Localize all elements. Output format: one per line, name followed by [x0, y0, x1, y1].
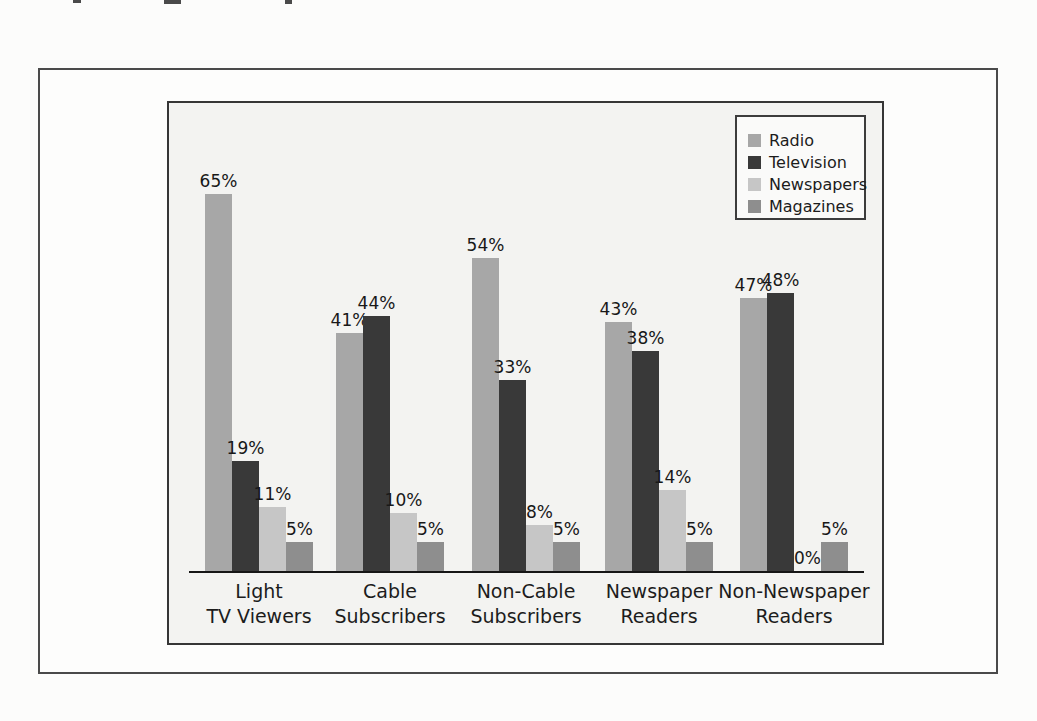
- legend-item-magazines: Magazines: [748, 195, 864, 217]
- bar-newspapers-2: [390, 513, 417, 571]
- chart-panel: 65%19%11%5%LightTV Viewers41%44%10%5%Cab…: [167, 101, 884, 645]
- x-axis-label-5: Non-NewspaperReaders: [718, 579, 869, 629]
- bar-television-5: [767, 293, 794, 571]
- bar-value-label-radio-1: 65%: [200, 171, 238, 191]
- bar-television-2: [363, 316, 390, 571]
- legend-label-newspapers: Newspapers: [769, 175, 867, 194]
- bar-value-label-television-4: 38%: [627, 328, 665, 348]
- bar-value-label-newspapers-1: 11%: [254, 484, 292, 504]
- bar-value-label-newspapers-3: 8%: [526, 502, 553, 522]
- legend-swatch-radio: [748, 134, 761, 147]
- bar-newspapers-4: [659, 490, 686, 571]
- legend-swatch-television: [748, 156, 761, 169]
- bar-magazines-1: [286, 542, 313, 571]
- bar-value-label-radio-3: 54%: [467, 235, 505, 255]
- bar-group-3: 54%33%8%5%: [472, 258, 580, 571]
- bar-value-label-television-1: 19%: [227, 438, 265, 458]
- bar-radio-5: [740, 298, 767, 571]
- figure-frame: 65%19%11%5%LightTV Viewers41%44%10%5%Cab…: [38, 68, 998, 674]
- legend-item-television: Television: [748, 151, 864, 173]
- bar-value-label-radio-4: 43%: [600, 299, 638, 319]
- bar-group-5: 47%48%0%5%: [740, 293, 848, 571]
- legend-label-magazines: Magazines: [769, 197, 854, 216]
- bar-value-label-magazines-1: 5%: [286, 519, 313, 539]
- bar-value-label-magazines-4: 5%: [686, 519, 713, 539]
- cropped-text-remnant: [285, 0, 292, 4]
- legend-item-newspapers: Newspapers: [748, 173, 864, 195]
- x-axis-label-2: CableSubscribers: [334, 579, 445, 629]
- bar-television-4: [632, 351, 659, 571]
- bar-group-1: 65%19%11%5%: [205, 194, 313, 571]
- cropped-text-remnant: [73, 0, 81, 3]
- legend: RadioTelevisionNewspapersMagazines: [735, 115, 866, 220]
- bar-magazines-5: [821, 542, 848, 571]
- bar-magazines-4: [686, 542, 713, 571]
- legend-label-television: Television: [769, 153, 847, 172]
- bar-magazines-2: [417, 542, 444, 571]
- bar-radio-2: [336, 333, 363, 571]
- bar-radio-4: [605, 322, 632, 571]
- bar-radio-3: [472, 258, 499, 571]
- bar-value-label-television-5: 48%: [762, 270, 800, 290]
- bar-value-label-magazines-2: 5%: [417, 519, 444, 539]
- legend-items: RadioTelevisionNewspapersMagazines: [748, 129, 864, 217]
- bar-group-4: 43%38%14%5%: [605, 322, 713, 571]
- bar-television-3: [499, 380, 526, 571]
- bar-value-label-television-2: 44%: [358, 293, 396, 313]
- legend-label-radio: Radio: [769, 131, 814, 150]
- bar-newspapers-1: [259, 507, 286, 571]
- cropped-text-remnant: [164, 0, 181, 4]
- legend-swatch-magazines: [748, 200, 761, 213]
- bar-value-label-newspapers-4: 14%: [654, 467, 692, 487]
- x-axis-label-4: NewspaperReaders: [606, 579, 713, 629]
- bar-group-2: 41%44%10%5%: [336, 316, 444, 571]
- legend-swatch-newspapers: [748, 178, 761, 191]
- x-axis-line: [189, 571, 864, 573]
- bar-value-label-newspapers-5: 0%: [794, 548, 821, 568]
- bar-television-1: [232, 461, 259, 571]
- bar-value-label-newspapers-2: 10%: [385, 490, 423, 510]
- bar-radio-1: [205, 194, 232, 571]
- bar-magazines-3: [553, 542, 580, 571]
- x-axis-label-1: LightTV Viewers: [206, 579, 311, 629]
- legend-item-radio: Radio: [748, 129, 864, 151]
- bar-value-label-magazines-3: 5%: [553, 519, 580, 539]
- bar-newspapers-3: [526, 525, 553, 571]
- bar-value-label-magazines-5: 5%: [821, 519, 848, 539]
- x-axis-label-3: Non-CableSubscribers: [470, 579, 581, 629]
- bar-value-label-television-3: 33%: [494, 357, 532, 377]
